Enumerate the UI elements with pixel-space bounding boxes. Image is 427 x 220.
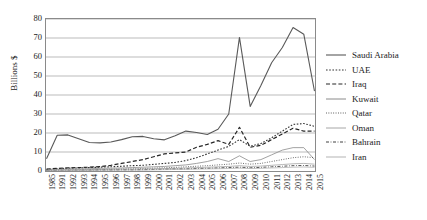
legend-item-iraq[interactable]: Iraq [326, 77, 426, 92]
x-tick-label: 2015 [317, 174, 325, 190]
x-tick-label: 1998 [134, 174, 142, 190]
legend-label: Bahrain [352, 137, 381, 147]
x-tick-label: 2007 [231, 174, 239, 190]
legend-item-qatar[interactable]: Qatar [326, 106, 426, 121]
x-tick-label: 2014 [306, 174, 314, 190]
legend-swatch-icon [326, 94, 346, 104]
legend-label: Kuwait [352, 94, 379, 104]
legend-swatch-icon [326, 108, 346, 118]
legend-item-oman[interactable]: Oman [326, 121, 426, 136]
y-tick-label: 60 [20, 52, 42, 60]
x-tick-label: 1993 [81, 174, 89, 190]
y-tick-label: 50 [20, 71, 42, 79]
y-tick-label: 20 [20, 128, 42, 136]
plot-area [45, 18, 316, 172]
legend-item-uae[interactable]: UAE [326, 63, 426, 78]
x-tick-label: 2002 [177, 174, 185, 190]
y-axis-ticks: 01020304050607080 [18, 0, 42, 220]
legend-swatch-icon [326, 65, 346, 75]
x-tick-label: 2005 [209, 174, 217, 190]
legend-item-kuwait[interactable]: Kuwait [326, 92, 426, 107]
legend-label: Qatar [352, 108, 372, 118]
x-tick-label: 2008 [241, 174, 249, 190]
legend-swatch-icon [326, 152, 346, 162]
legend-label: UAE [352, 65, 371, 75]
series-line-uae [47, 124, 315, 170]
x-tick-label: 2004 [199, 174, 207, 190]
x-tick-label: 2010 [263, 174, 271, 190]
y-tick-label: 10 [20, 147, 42, 155]
y-tick-label: 30 [20, 109, 42, 117]
legend-label: Oman [352, 123, 374, 133]
x-tick-label: 2001 [166, 174, 174, 190]
x-tick-label: 1995 [102, 174, 110, 190]
series-line-kuwait [47, 148, 315, 170]
legend-item-iran[interactable]: Iran [326, 150, 426, 165]
x-tick-label: 2012 [284, 174, 292, 190]
x-tick-label: 1997 [124, 174, 132, 190]
legend-label: Iraq [352, 79, 367, 89]
y-tick-label: 40 [20, 90, 42, 98]
line-chart: Billions $ 01020304050607080 19851991199… [0, 0, 427, 220]
x-tick-label: 1994 [91, 174, 99, 190]
legend-label: Iran [352, 152, 367, 162]
legend-item-bahrain[interactable]: Bahrain [326, 135, 426, 150]
x-tick-label: 1992 [70, 174, 78, 190]
x-tick-label: 2006 [220, 174, 228, 190]
plot-svg [46, 19, 315, 171]
legend-label: Saudi Arabia [352, 50, 399, 60]
x-tick-label: 2009 [252, 174, 260, 190]
x-tick-label: 2011 [274, 174, 282, 190]
x-tick-label: 1996 [113, 174, 121, 190]
x-tick-label: 1991 [59, 174, 67, 190]
x-tick-label: 2003 [188, 174, 196, 190]
y-tick-label: 80 [20, 14, 42, 22]
legend-swatch-icon [326, 123, 346, 133]
legend-swatch-icon [326, 50, 346, 60]
x-tick-label: 1985 [49, 174, 57, 190]
legend-swatch-icon [326, 79, 346, 89]
legend-swatch-icon [326, 137, 346, 147]
x-tick-label: 2013 [295, 174, 303, 190]
x-tick-label: 2000 [156, 174, 164, 190]
x-axis-ticks: 1985199119921993199419951996199719981999… [45, 174, 316, 220]
legend-item-saudi-arabia[interactable]: Saudi Arabia [326, 48, 426, 63]
x-tick-label: 1999 [145, 174, 153, 190]
y-tick-label: 0 [20, 166, 42, 174]
y-tick-label: 70 [20, 33, 42, 41]
chart-legend: Saudi ArabiaUAEIraqKuwaitQatarOmanBahrai… [326, 48, 426, 164]
series-line-saudi-arabia [47, 28, 315, 159]
